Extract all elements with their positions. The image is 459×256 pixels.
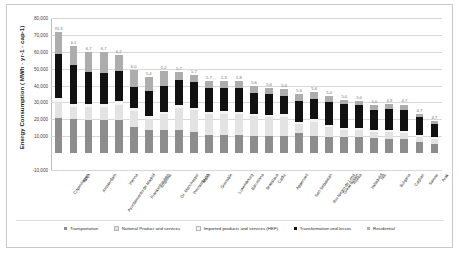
bar-column[interactable]: 5,6: [250, 18, 258, 170]
bar-column[interactable]: 5,6: [265, 18, 273, 170]
bar-segment: [355, 130, 363, 137]
bar-column[interactable]: 5,6: [310, 18, 318, 170]
bar-column[interactable]: 5,0: [355, 18, 363, 170]
bar-segment: [295, 124, 303, 133]
bar-column[interactable]: 4,7: [416, 18, 424, 170]
bar-column[interactable]: 6,7: [85, 18, 93, 170]
bar-segment: [400, 139, 408, 153]
bar-column[interactable]: 5,3: [220, 18, 228, 170]
bar-segment: [190, 75, 198, 82]
bar-segment: [160, 86, 168, 111]
bar-segment: [100, 73, 108, 104]
y-axis-title: Energy Consumption ( MWh · yr-1 · cap-1): [18, 13, 25, 163]
bar-segment: [310, 136, 318, 153]
legend-item[interactable]: Imported products and services (HEF): [196, 226, 278, 231]
bar-column[interactable]: 4,7: [431, 18, 439, 170]
bar-column[interactable]: 5,0: [325, 18, 333, 170]
bar-column[interactable]: 4,7: [400, 18, 408, 170]
bar-segment: [100, 52, 108, 73]
bar-column[interactable]: 6,1: [70, 18, 78, 170]
legend-item[interactable]: National Product and services: [114, 226, 180, 231]
bar-column[interactable]: 5,6: [280, 18, 288, 170]
legend-label: Transformation and losses: [300, 226, 352, 231]
bar-segment: [400, 110, 408, 131]
legend-item[interactable]: Transformation and losses: [294, 226, 351, 231]
y-axis-tick-label: 60,000: [34, 49, 48, 54]
y-axis-tick-label: 30,000: [34, 100, 48, 105]
bar-column[interactable]: 5,0: [340, 18, 348, 170]
bar-segment: [175, 80, 183, 105]
bar-stack: [250, 86, 258, 153]
bar-column[interactable]: 5,7: [175, 18, 183, 170]
legend-item[interactable]: Residential: [367, 226, 394, 231]
bar-segment: [205, 114, 213, 135]
bar-data-label: 6,0: [131, 64, 137, 69]
bar-segment: [385, 132, 393, 139]
bar-stack: [370, 105, 378, 153]
bar-stack: [325, 96, 333, 153]
bar-segment: [385, 139, 393, 153]
bar-segment: [280, 117, 288, 136]
bar-segment: [325, 137, 333, 153]
bar-stack: [160, 71, 168, 153]
bar-segment: [85, 120, 93, 153]
bar-data-label: 5,6: [311, 86, 317, 91]
bar-stack: [220, 81, 228, 154]
x-axis-label: Grenoble: [219, 173, 233, 190]
bar-stack: [55, 32, 63, 154]
bar-data-label: 5,0: [341, 94, 347, 99]
bar-segment: [220, 114, 228, 135]
bar-segment: [235, 114, 243, 135]
bar-column[interactable]: 4,9: [385, 18, 393, 170]
bar-segment: [145, 91, 153, 116]
bar-segment: [250, 93, 258, 114]
bar-data-label: 6,7: [101, 46, 107, 51]
bar-segment: [145, 77, 153, 92]
bar-column[interactable]: 5,4: [145, 18, 153, 170]
x-axis-label: Cagliari: [413, 173, 425, 188]
legend-label: Transportation: [70, 226, 98, 231]
bar-segment: [370, 138, 378, 153]
legend-swatch-icon: [64, 227, 67, 230]
bar-stack: [130, 70, 138, 153]
legend-label: National Product and services: [122, 226, 180, 231]
bar-segment: [100, 120, 108, 153]
bar-segment: [85, 72, 93, 103]
bar-column[interactable]: 5,6: [295, 18, 303, 170]
bar-column[interactable]: 5,7: [190, 18, 198, 170]
chart-root: Energy Consumption ( MWh · yr-1 · cap-1)…: [0, 0, 459, 256]
bar-column[interactable]: 6,2: [115, 18, 123, 170]
x-axis-label: San Sebastian: [314, 173, 334, 198]
bar-data-label: 5,0: [326, 90, 332, 95]
bar-segment: [310, 122, 318, 136]
bar-segment: [325, 127, 333, 138]
bar-data-label: 4,9: [387, 98, 393, 103]
plot-area: -10,00010,00020,00030,00040,00050,00060,…: [51, 18, 442, 170]
bar-column[interactable]: 5,0: [370, 18, 378, 170]
bar-segment: [265, 94, 273, 114]
bar-data-label: 5,6: [296, 88, 302, 93]
bar-stack: [100, 52, 108, 153]
bar-column[interactable]: 6,0: [130, 18, 138, 170]
bar-column[interactable]: 6,7: [100, 18, 108, 170]
bar-segment: [130, 70, 138, 87]
bar-column[interactable]: 5,8: [235, 18, 243, 170]
x-axis-label: Malta: [201, 173, 211, 184]
bar-column[interactable]: 5,2: [160, 18, 168, 170]
y-axis-tick-label: 40,000: [34, 83, 48, 88]
bar-data-label: 5,6: [266, 82, 272, 87]
bar-segment: [190, 82, 198, 107]
legend-swatch-icon: [294, 227, 297, 230]
bar-data-label: 70,3: [55, 26, 63, 31]
y-axis-tick-label: -10,000: [32, 168, 48, 173]
legend-label: Imported products and services (HEF): [204, 226, 278, 231]
bar-column[interactable]: 70,3: [55, 18, 63, 170]
bar-segment: [115, 55, 123, 71]
legend-item[interactable]: Transportation: [64, 226, 98, 231]
bar-data-label: 6,1: [71, 40, 77, 45]
bar-stack: [115, 55, 123, 153]
bar-stack: [265, 88, 273, 153]
bar-column[interactable]: 5,7: [205, 18, 213, 170]
bar-data-label: 5,6: [281, 83, 287, 88]
bar-segment: [295, 101, 303, 122]
